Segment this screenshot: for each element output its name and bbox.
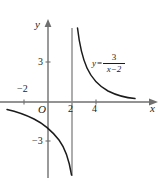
equation-denominator: x−2 bbox=[107, 64, 122, 74]
function-graph-figure: y x O −2 2 4 3 −3 y = 3 x−2 bbox=[0, 0, 161, 182]
origin-label: O bbox=[38, 104, 46, 115]
y-tick-label-minus-3: −3 bbox=[32, 136, 43, 146]
x-tick-label-minus-2: −2 bbox=[17, 84, 28, 94]
y-axis-label: y bbox=[35, 19, 40, 30]
y-axis-arrow-icon bbox=[45, 19, 52, 27]
equation-annotation: y = 3 x−2 bbox=[92, 53, 125, 74]
equation-fraction: 3 x−2 bbox=[103, 53, 125, 74]
equation-numerator: 3 bbox=[112, 53, 117, 63]
y-tick-label-3: 3 bbox=[38, 57, 43, 67]
x-axis-label: x bbox=[150, 103, 155, 114]
equation-equals-sign: = bbox=[96, 59, 103, 68]
x-tick-label-4: 4 bbox=[92, 104, 97, 114]
x-tick-label-2: 2 bbox=[68, 104, 73, 114]
